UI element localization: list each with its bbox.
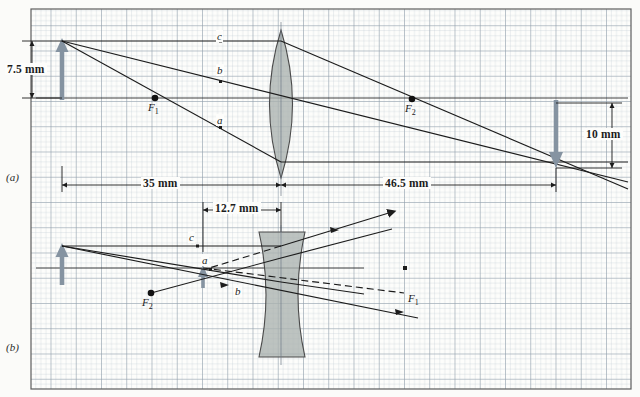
ray-label-b-b: b — [234, 285, 242, 297]
dimension-label-object-distance: 35 mm — [141, 177, 180, 189]
focal-label-F2-b: F2 — [142, 296, 153, 311]
ray-a-marker-a — [219, 126, 222, 129]
focal-letter: F — [408, 292, 415, 304]
panel-label-b: (b) — [6, 341, 19, 353]
ray-a-marker-b — [209, 268, 212, 271]
focal-label-F2-a: F2 — [405, 102, 416, 117]
focal-point-F1-b — [403, 266, 407, 270]
dimension-label-image-distance-b: 12.7 mm — [213, 202, 261, 214]
focal-letter: F — [142, 296, 149, 308]
ray-label-c-b: c — [188, 231, 195, 243]
ray-b-marker-a — [219, 80, 222, 83]
ray-label-b-a: b — [216, 64, 224, 76]
ray-c-marker-b — [196, 245, 199, 248]
focal-subscript: 2 — [149, 302, 153, 311]
focal-subscript: 1 — [155, 107, 159, 116]
dimension-label-image-height: 10 mm — [584, 128, 623, 140]
focal-subscript: 2 — [412, 108, 416, 117]
ray-label-c-a: c — [216, 30, 223, 42]
ray-label-a-b: a — [201, 254, 209, 266]
diagram-canvas — [0, 0, 640, 397]
graph-paper — [31, 9, 631, 389]
dimension-label-object-height: 7.5 mm — [5, 63, 47, 75]
optics-ray-diagram-figure: (a) (b) 7.5 mm 35 mm 46.5 mm 10 mm 12.7 … — [0, 0, 640, 397]
focal-label-F1-a: F1 — [148, 101, 159, 116]
ray-label-a-a: a — [216, 114, 224, 126]
focal-subscript: 1 — [415, 298, 419, 307]
panel-label-a: (a) — [6, 171, 19, 183]
focal-letter: F — [148, 101, 155, 113]
dimension-label-image-distance: 46.5 mm — [383, 177, 431, 189]
focal-label-F1-b: F1 — [408, 292, 419, 307]
focal-letter: F — [405, 102, 412, 114]
